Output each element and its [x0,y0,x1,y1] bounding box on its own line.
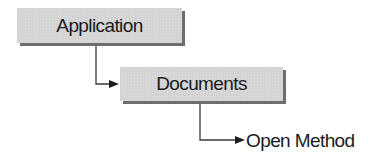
connector-documents-to-open-method [200,104,245,144]
node-open-method-label: Open Method [246,130,355,152]
connector-application-to-documents [96,46,119,88]
node-documents: Documents [120,67,283,101]
node-application-label: Application [56,15,142,37]
arrowhead-icon [109,80,119,88]
node-documents-label: Documents [156,73,247,95]
node-application: Application [17,8,182,43]
arrowhead-icon [235,136,245,144]
